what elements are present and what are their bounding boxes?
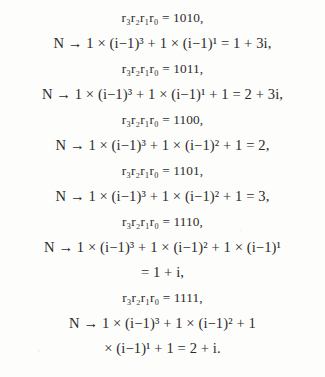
equation-line-n-1111: N → 1 × (i−1)³ + 1 × (i−1)² + 1 [4,313,321,338]
equation-text: N → 1 × (i−1)³ + 1 × (i−1)² + 1 = 2, [56,138,270,153]
equation-text: N → 1 × (i−1)³ + 1 × (i−1)² + 1 [69,316,256,331]
equation-line-n-1011: N → 1 × (i−1)³ + 1 × (i−1)¹ + 1 = 2 + 3i… [4,84,321,109]
equation-text: = 1 + i, [141,265,184,280]
equation-line-r-1100: r₃r₂r₁r₀ = 1100, [4,109,321,135]
equation-text: r₃r₂r₁r₀ = 1110, [122,215,203,228]
equation-line-n-1100: N → 1 × (i−1)³ + 1 × (i−1)² + 1 = 2, [4,135,321,160]
equation-line-r-1011: r₃r₂r₁r₀ = 1011, [4,58,321,84]
equation-line-r-1101: r₃r₂r₁r₀ = 1101, [4,160,321,186]
equation-line-n-1101: N → 1 × (i−1)³ + 1 × (i−1)² + 1 = 3, [4,186,321,211]
equation-line-n-1110-continuation: = 1 + i, [4,262,321,287]
equation-text: N → 1 × (i−1)³ + 1 × (i−1)¹ + 1 = 2 + 3i… [42,87,283,102]
equation-text: r₃r₂r₁r₀ = 1111, [122,291,202,304]
equation-text: r₃r₂r₁r₀ = 1100, [122,113,203,126]
equation-text: × (i−1)¹ + 1 = 2 + i. [104,341,221,356]
equation-text: N → 1 × (i−1)³ + 1 × (i−1)² + 1 = 3, [56,189,270,204]
equation-text: r₃r₂r₁r₀ = 1011, [122,62,203,75]
equation-line-n-1111-continuation: × (i−1)¹ + 1 = 2 + i. [4,338,321,363]
equation-block: r₃r₂r₁r₀ = 1010, N → 1 × (i−1)³ + 1 × (i… [0,0,325,363]
equation-text: r₃r₂r₁r₀ = 1101, [122,164,203,177]
equation-line-r-1110: r₃r₂r₁r₀ = 1110, [4,211,321,237]
equation-line-n-1010: N → 1 × (i−1)³ + 1 × (i−1)¹ = 1 + 3i, [4,33,321,58]
equation-line-r-1010: r₃r₂r₁r₀ = 1010, [4,7,321,33]
equation-text: r₃r₂r₁r₀ = 1010, [122,11,204,24]
equation-line-r-1111: r₃r₂r₁r₀ = 1111, [4,287,321,313]
equation-text: N → 1 × (i−1)³ + 1 × (i−1)¹ = 1 + 3i, [53,36,271,51]
equation-line-n-1110: N → 1 × (i−1)³ + 1 × (i−1)² + 1 × (i−1)¹ [4,237,321,262]
equation-text: N → 1 × (i−1)³ + 1 × (i−1)² + 1 × (i−1)¹ [44,240,281,255]
